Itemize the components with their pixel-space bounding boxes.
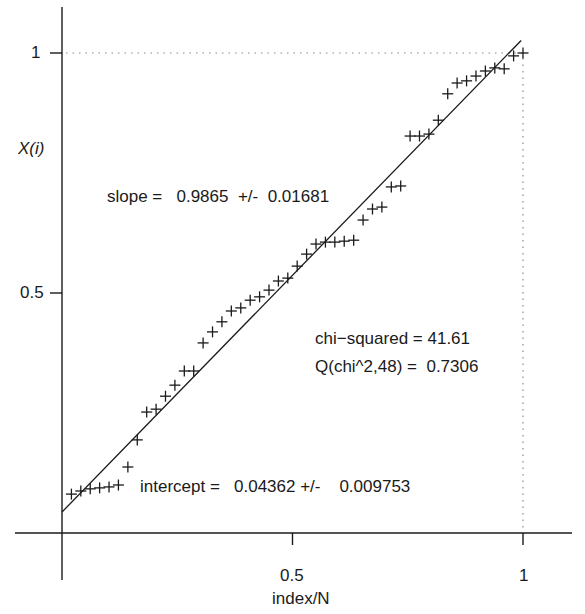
data-point-plus-marker — [94, 482, 105, 493]
data-point-plus-marker — [518, 48, 529, 59]
data-point-plus-marker — [461, 75, 472, 86]
chart-canvas — [0, 0, 585, 614]
data-point-plus-marker — [122, 462, 133, 473]
slope-annotation: slope = 0.9865 +/- 0.01681 — [107, 187, 329, 207]
data-point-plus-marker — [301, 249, 312, 260]
data-point-plus-marker — [75, 486, 86, 497]
data-point-plus-marker — [198, 337, 209, 348]
data-point-plus-marker — [235, 302, 246, 313]
data-point-plus-marker — [160, 391, 171, 402]
data-point-plus-marker — [395, 180, 406, 191]
x-axis-title: index/N — [272, 589, 330, 609]
data-point-plus-marker — [367, 204, 378, 215]
data-point-plus-marker — [226, 306, 237, 317]
q-value-annotation: Q(chi^2,48) = 0.7306 — [315, 357, 478, 377]
data-point-plus-marker — [141, 407, 152, 418]
data-point-plus-marker — [292, 261, 303, 272]
data-point-plus-marker — [358, 215, 369, 226]
data-point-plus-marker — [423, 129, 434, 140]
data-point-plus-marker — [480, 66, 491, 77]
data-point-plus-marker — [386, 181, 397, 192]
data-point-plus-marker — [132, 434, 143, 445]
regression-line — [62, 40, 521, 512]
x-tick-label-1: 1 — [519, 566, 528, 586]
data-point-plus-marker — [245, 295, 256, 306]
data-point-plus-marker — [329, 237, 340, 248]
data-point-plus-marker — [452, 78, 463, 89]
data-point-plus-marker — [254, 291, 265, 302]
data-point-plus-marker — [216, 316, 227, 327]
intercept-annotation: intercept = 0.04362 +/- 0.009753 — [140, 477, 410, 497]
data-point-plus-marker — [207, 326, 218, 337]
y-axis-title: X(i) — [18, 139, 44, 159]
data-point-plus-marker — [405, 131, 416, 142]
x-tick-label-05: 0.5 — [280, 566, 304, 586]
data-point-plus-marker — [348, 235, 359, 246]
y-tick-label-05: 0.5 — [20, 283, 44, 303]
data-points — [66, 48, 529, 500]
data-point-plus-marker — [433, 115, 444, 126]
data-point-plus-marker — [104, 481, 115, 492]
data-point-plus-marker — [282, 273, 293, 284]
data-point-plus-marker — [442, 88, 453, 99]
data-point-plus-marker — [113, 480, 124, 491]
data-point-plus-marker — [85, 483, 96, 494]
data-point-plus-marker — [188, 366, 199, 377]
data-point-plus-marker — [499, 63, 510, 74]
y-tick-label-1: 1 — [31, 43, 40, 63]
data-point-plus-marker — [179, 366, 190, 377]
data-point-plus-marker — [339, 236, 350, 247]
data-point-plus-marker — [470, 71, 481, 82]
data-point-plus-marker — [376, 202, 387, 213]
data-point-plus-marker — [414, 131, 425, 142]
data-point-plus-marker — [169, 380, 180, 391]
data-point-plus-marker — [263, 285, 274, 296]
data-point-plus-marker — [151, 404, 162, 415]
chi-squared-annotation: chi−squared = 41.61 — [315, 329, 470, 349]
data-point-plus-marker — [273, 276, 284, 287]
